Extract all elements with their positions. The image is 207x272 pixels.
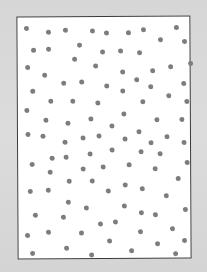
dot [81, 167, 86, 172]
dot [139, 210, 144, 215]
dot [121, 111, 126, 116]
dot [104, 30, 109, 35]
dot [122, 203, 127, 208]
dot [166, 93, 171, 98]
dot [80, 136, 85, 141]
dot [188, 61, 193, 66]
dot [48, 99, 53, 104]
dot [88, 117, 93, 122]
dot [30, 89, 35, 94]
dot [138, 229, 143, 234]
dot [150, 68, 155, 73]
dot [50, 156, 55, 161]
dot [46, 230, 51, 235]
dot [120, 69, 125, 74]
dot [42, 73, 47, 78]
dot [173, 251, 178, 256]
dot [123, 182, 128, 187]
dot [48, 170, 53, 175]
dot [153, 212, 158, 217]
dot-sheet [16, 16, 191, 260]
dot [25, 132, 30, 137]
dot [77, 43, 82, 48]
dot [84, 206, 89, 211]
dot [168, 64, 173, 69]
dot [72, 57, 77, 62]
dot [134, 77, 139, 82]
dot [101, 164, 106, 169]
dot [88, 152, 93, 157]
dot [25, 65, 30, 70]
dot [61, 81, 66, 86]
dot [31, 48, 36, 53]
dot [184, 99, 189, 104]
dot [64, 155, 69, 160]
dot [65, 121, 70, 126]
dot [107, 238, 112, 243]
dot [43, 118, 48, 123]
dot [148, 84, 153, 89]
dot [90, 29, 95, 34]
dot [64, 246, 69, 251]
dot [141, 27, 146, 32]
dot [176, 176, 181, 181]
dot [164, 193, 169, 198]
dot [158, 37, 163, 42]
dot [30, 162, 35, 167]
dot [158, 151, 163, 156]
dot [164, 134, 169, 139]
dot [170, 226, 175, 231]
dot [93, 64, 98, 69]
dot [182, 238, 187, 243]
dot [185, 160, 190, 165]
dot [182, 140, 187, 145]
dot [106, 188, 111, 193]
dot [154, 117, 159, 122]
dot [63, 28, 68, 33]
dot [89, 253, 94, 258]
dot [113, 219, 118, 224]
dot [136, 129, 141, 134]
dot [129, 248, 134, 253]
dot [79, 80, 84, 85]
dot [120, 88, 125, 93]
dot [153, 166, 158, 171]
dot [46, 188, 51, 193]
dot [28, 189, 33, 194]
dot [95, 101, 100, 106]
dot [33, 213, 38, 218]
dot [25, 233, 30, 238]
dot [109, 123, 114, 128]
dot [66, 200, 71, 205]
dot [110, 147, 115, 152]
dot [183, 207, 188, 212]
dot [118, 48, 123, 53]
dot [140, 99, 145, 104]
dot [100, 49, 105, 54]
dot [24, 108, 29, 113]
dot [181, 81, 186, 86]
dot [96, 134, 101, 139]
dot [127, 162, 132, 167]
dot [155, 241, 160, 246]
dot [70, 99, 75, 104]
dot [67, 179, 72, 184]
dot [139, 149, 144, 154]
dot [61, 215, 66, 220]
dot [40, 134, 45, 139]
dot [126, 30, 131, 35]
dot [24, 26, 29, 31]
dot [122, 136, 127, 141]
dot [104, 83, 109, 88]
dot [79, 231, 84, 236]
dot [63, 140, 68, 145]
dot [46, 47, 51, 52]
dot [98, 222, 103, 227]
dot [90, 179, 95, 184]
dot [174, 25, 179, 30]
dot [179, 117, 184, 122]
dot [30, 251, 35, 256]
dot [182, 39, 187, 44]
dot [46, 30, 51, 35]
dot [149, 140, 154, 145]
